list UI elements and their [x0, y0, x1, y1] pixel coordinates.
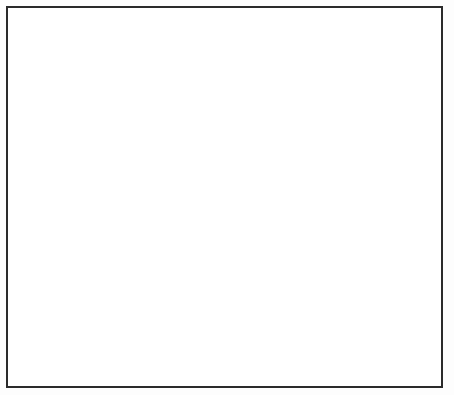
chart-plot-area [0, 0, 454, 395]
chart-root [0, 0, 454, 395]
